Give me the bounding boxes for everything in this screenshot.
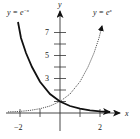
svg-text:y = ex: y = ex: [92, 8, 113, 17]
tick-label-2: 2: [98, 123, 102, 132]
tick-label-7: 7: [45, 28, 49, 37]
tick-label-neg2: −2: [14, 123, 23, 132]
svg-text:y = e−x: y = e−x: [6, 8, 30, 17]
legend-exp-x: y = ex: [92, 8, 113, 17]
tick-label-3: 3: [45, 74, 49, 83]
tick-label-5: 5: [45, 51, 49, 60]
legend-exp-neg-x: y = e−x: [6, 8, 30, 17]
exponential-chart: y x 7 5 3 −2 2 y = e−x y = ex: [0, 0, 140, 139]
y-axis-label: y: [57, 0, 62, 9]
x-axis-label: x: [124, 109, 129, 118]
